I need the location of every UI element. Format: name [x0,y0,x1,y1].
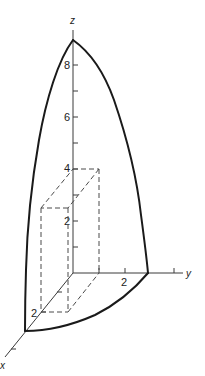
z-axis-ticks [73,65,78,247]
z-tick-label-8: 8 [64,59,70,71]
base-boundary-curve [25,273,148,331]
z-tick-label-4: 4 [64,162,70,174]
left-boundary-curve [25,40,73,331]
x-axis-label: x [0,360,6,371]
right-boundary-curve [73,40,148,273]
x-axis [5,273,73,357]
y-axis-ticks [99,268,174,273]
z-axis-label: z [69,15,75,26]
3d-solid-diagram: z 2 4 6 8 2 y 2 x [0,0,205,376]
y-axis-label: y [185,268,192,279]
z-tick-label-2: 2 [64,215,70,227]
z-tick-label-6: 6 [64,111,70,123]
y-tick-label-2: 2 [121,276,127,288]
x-tick-label-2: 2 [31,307,37,319]
dashed-box [41,169,99,312]
